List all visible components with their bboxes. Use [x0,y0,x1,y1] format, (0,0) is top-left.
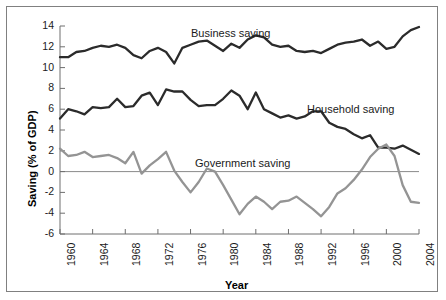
y-tick-label: -6 [32,227,54,239]
x-tick-label: 1984 [261,243,273,266]
chart-screenshot: Saving (% of GDP) Year 14121086420-2-4-6… [0,0,446,300]
y-tick-label: -4 [32,206,54,218]
y-tick-label: 8 [32,81,54,93]
figure-frame: Saving (% of GDP) Year 14121086420-2-4-6… [6,6,438,292]
x-tick-label: 2004 [424,243,436,266]
series-label-business-saving: Business saving [191,27,271,39]
y-tick-label: 2 [32,144,54,156]
series-label-household-saving: Household saving [307,103,394,115]
series-line-2 [60,145,419,217]
x-tick-label: 1972 [163,243,175,266]
y-tick-label: 14 [32,19,54,31]
y-tick-label: 6 [32,102,54,114]
x-axis-title: Year [225,279,248,291]
x-tick-label: 1964 [98,243,110,266]
y-tick-label: 4 [32,123,54,135]
x-tick-label: 1960 [65,243,77,266]
y-tick-label: -2 [32,185,54,197]
x-tick-label: 1968 [130,243,142,266]
y-tick-label: 12 [32,40,54,52]
series-label-government-saving: Government saving [195,157,290,169]
x-tick-label: 1988 [293,243,305,266]
y-tick-label: 0 [32,165,54,177]
y-tick-label: 10 [32,61,54,73]
x-tick-label: 2000 [391,243,403,266]
x-tick-label: 1992 [326,243,338,266]
x-tick-label: 1980 [228,243,240,266]
x-tick-label: 1976 [196,243,208,266]
series-line-1 [60,89,419,153]
x-tick-label: 1996 [359,243,371,266]
